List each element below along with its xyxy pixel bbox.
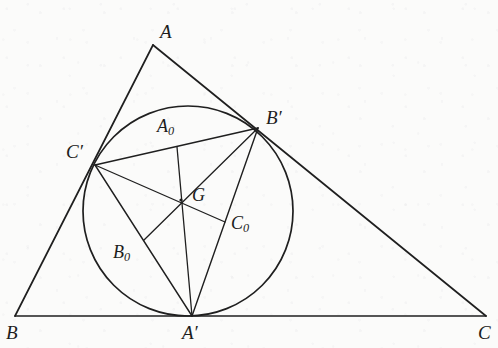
midpoint-label-A0: A0 [157, 117, 174, 138]
incircle [83, 106, 293, 316]
centroid-label-G: G [192, 186, 205, 204]
outer-triangle-abc [15, 45, 486, 316]
midpoint-label-A0-base: A [157, 116, 168, 136]
midpoint-label-C0: C0 [231, 214, 249, 235]
segment-median-Cp-C0 [95, 165, 225, 222]
midpoint-label-B0-base: B [113, 242, 124, 262]
geometry-figure: A B C A′ B′ C′ A0 B0 C0 G [0, 0, 498, 348]
segment-median-Ap-A0 [177, 147, 192, 316]
vertex-label-C: C [478, 323, 491, 342]
segment-side-AB [15, 45, 153, 316]
vertex-label-A: A [160, 22, 172, 41]
vertex-label-A-prime: A′ [182, 323, 198, 342]
vertex-label-B-prime: B′ [266, 108, 282, 127]
segment-side-AC [153, 45, 486, 316]
centroid-point-G [179, 198, 182, 201]
midpoint-label-C0-subscript: 0 [243, 221, 249, 235]
midpoint-label-A0-subscript: 0 [168, 124, 174, 138]
vertex-label-C-prime: C′ [66, 142, 83, 161]
vertex-label-B: B [6, 323, 18, 342]
segment-contact-CpAp [95, 165, 192, 316]
segment-contact-CpBp [95, 128, 258, 165]
midpoint-label-C0-base: C [231, 213, 243, 233]
midpoint-label-B0-subscript: 0 [124, 250, 130, 264]
figure-canvas [0, 0, 498, 348]
midpoint-label-B0: B0 [113, 243, 130, 264]
